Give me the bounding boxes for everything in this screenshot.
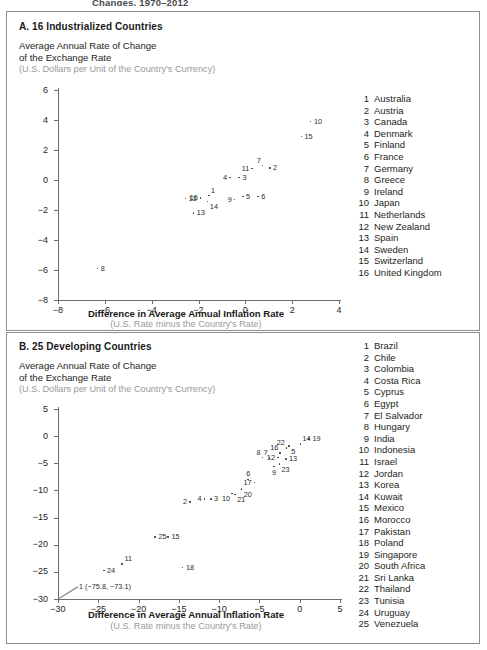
legend-item-new-zealand: 12New Zealand (355, 221, 442, 233)
legend-item-number: 2 (355, 105, 369, 117)
legend-item-label: Cyprus (369, 386, 404, 398)
point-label: 18 (186, 564, 194, 572)
legend-item-spain: 13Spain (355, 232, 442, 244)
point-marker (103, 570, 105, 572)
legend-item-korea: 13Korea (355, 479, 425, 491)
legend-item-label: Australia (369, 93, 411, 105)
legend-item-number: 14 (355, 244, 369, 256)
y-axis-line (58, 407, 59, 600)
y-tick (54, 240, 58, 241)
legend-item-indonesia: 10Indonesia (355, 444, 425, 456)
legend-item-label: Kuwait (369, 491, 403, 503)
legend-item-label: Uruguay (369, 607, 410, 619)
point-label: 5 (246, 193, 250, 201)
y-tick-label: −15 (22, 513, 48, 522)
legend-item-number: 21 (355, 572, 369, 584)
legend-item-morocco: 16Morocco (355, 514, 425, 526)
legend-item-colombia: 3Colombia (355, 363, 425, 375)
x-tick (259, 599, 260, 603)
legend-item-kuwait: 14Kuwait (355, 491, 425, 503)
point-label: 3 (242, 174, 246, 182)
point-marker (254, 482, 256, 484)
point-marker (207, 201, 209, 203)
legend-item-label: Ireland (369, 186, 403, 198)
y-tick-label: 6 (22, 86, 48, 95)
point-marker (285, 458, 287, 460)
cut-off-heading: Changes, 1970–2012 (92, 0, 392, 6)
legend-item-label: Greece (369, 174, 405, 186)
x-tick (139, 599, 140, 603)
legend-item-denmark: 4Denmark (355, 128, 442, 140)
point-label: 1 (211, 187, 215, 195)
point-marker (182, 567, 184, 569)
legend-item-thailand: 22Thailand (355, 583, 425, 595)
legend-item-label: Tunisia (369, 595, 404, 607)
legend-item-number: 12 (355, 468, 369, 480)
point-marker (286, 447, 288, 449)
y-tick-label: −10 (22, 486, 48, 495)
legend-item-australia: 1Australia (355, 93, 442, 105)
point-label: 2 (183, 498, 187, 506)
point-marker (234, 494, 236, 496)
legend-item-label: Finland (369, 139, 405, 151)
legend-item-number: 10 (355, 197, 369, 209)
point-label: 9 (272, 469, 276, 477)
legend-item-greece: 8Greece (355, 174, 442, 186)
point-label: 6 (261, 193, 265, 201)
legend-item-label: Jordan (369, 468, 403, 480)
x-tick (340, 599, 341, 603)
legend-item-poland: 18Poland (355, 537, 425, 549)
point-label: 13 (197, 209, 205, 217)
legend-item-number: 17 (355, 526, 369, 538)
legend-item-label: Germany (369, 163, 413, 175)
point-label: 22 (277, 439, 285, 447)
legend-item-sri-lanka: 21Sri Lanka (355, 572, 425, 584)
legend-item-label: Netherlands (369, 209, 425, 221)
point-label: 21 (237, 496, 245, 504)
point-marker (310, 121, 312, 123)
legend-item-number: 3 (355, 116, 369, 128)
legend-item-brazil: 1Brazil (355, 340, 425, 352)
legend-item-mexico: 15Mexico (355, 502, 425, 514)
legend-item-venezuela: 25Venezuela (355, 618, 425, 630)
legend-item-number: 14 (355, 491, 369, 503)
y-tick (54, 572, 58, 573)
legend-item-number: 8 (355, 421, 369, 433)
annotation-leader-line (59, 586, 78, 599)
legend-item-label: South Africa (369, 560, 425, 572)
legend-item-label: Indonesia (369, 444, 415, 456)
y-tick-label: −4 (22, 236, 48, 245)
legend-item-jordan: 12Jordan (355, 468, 425, 480)
legend-item-label: Sri Lanka (369, 572, 414, 584)
point-label: 3 (214, 495, 218, 503)
point-marker (308, 438, 310, 440)
point-marker (154, 536, 156, 538)
x-tick (179, 599, 180, 603)
y-tick (54, 120, 58, 121)
point-label: 16 (190, 194, 198, 202)
legend-item-finland: 5Finland (355, 139, 442, 151)
legend-item-india: 9India (355, 433, 425, 445)
point-label: 11 (242, 165, 250, 173)
y-tick (54, 180, 58, 181)
x-tick (292, 300, 293, 304)
legend-item-number: 1 (355, 93, 369, 105)
legend-item-label: Sweden (369, 244, 408, 256)
point-label: 15 (171, 533, 179, 541)
legend-item-number: 3 (355, 363, 369, 375)
legend-item-number: 15 (355, 502, 369, 514)
panel-industrialized-countries: A. 16 Industrialized Countries Average A… (6, 11, 480, 331)
point-label: 4 (223, 174, 227, 182)
point-marker (257, 196, 259, 198)
legend-item-singapore: 19Singapore (355, 549, 425, 561)
point-marker (279, 463, 281, 465)
point-marker (269, 167, 271, 169)
x-tick (58, 300, 59, 304)
point-marker (262, 457, 264, 459)
point-marker (167, 536, 169, 538)
legend-item-hungary: 8Hungary (355, 421, 425, 433)
legend-b: 1Brazil2Chile3Colombia4Costa Rica5Cyprus… (355, 340, 425, 630)
point-marker (204, 498, 206, 500)
y-tick (54, 518, 58, 519)
point-marker (234, 199, 236, 201)
